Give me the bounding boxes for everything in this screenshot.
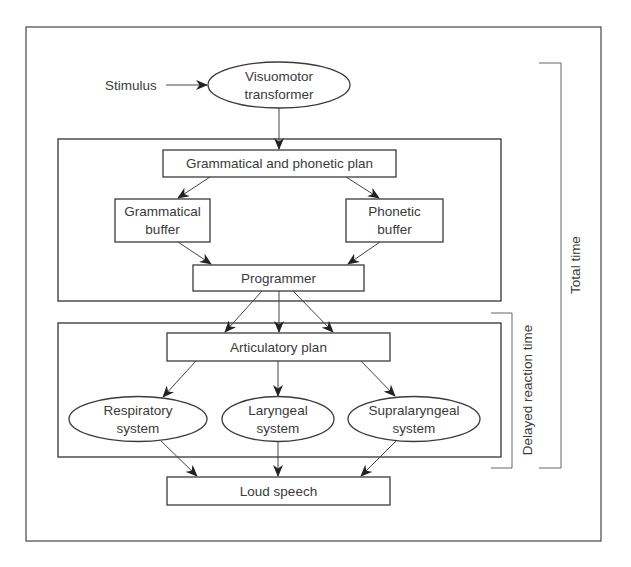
total-time-label: Total time — [568, 236, 583, 294]
programmer-node: Programmer — [193, 265, 364, 291]
supralaryngeal-to-speech-arrow — [361, 441, 396, 476]
visuomotor-line1: Visuomotor — [245, 69, 314, 84]
delayed-reaction-time-label: Delayed reaction time — [520, 325, 535, 456]
respiratory-system-node: Respiratory system — [69, 397, 207, 442]
respiratory-line2: system — [117, 421, 160, 436]
total-time-bracket — [539, 63, 561, 468]
supralaryngeal-line1: Supralaryngeal — [369, 403, 460, 418]
articulatory-plan-label: Articulatory plan — [230, 340, 327, 355]
plan-to-phonetic-arrow — [346, 177, 379, 198]
grammatical-buffer-node: Grammatical buffer — [115, 199, 210, 242]
programmer-to-articulatory-arrow-right — [293, 291, 333, 332]
plan-label: Grammatical and phonetic plan — [186, 156, 373, 171]
visuomotor-line2: transformer — [244, 87, 314, 102]
grammatical-buffer-line1: Grammatical — [124, 204, 201, 219]
laryngeal-line2: system — [257, 421, 300, 436]
speech-production-diagram: Stimulus Visuomotor transformer Grammati… — [0, 0, 631, 567]
plan-to-grammatical-arrow — [178, 177, 210, 198]
supralaryngeal-system-node: Supralaryngeal system — [348, 397, 480, 442]
programmer-to-articulatory-arrow-left — [225, 291, 262, 332]
grammatical-to-programmer-arrow — [178, 242, 211, 264]
loud-speech-label: Loud speech — [240, 484, 317, 499]
visuomotor-transformer-node: Visuomotor transformer — [208, 62, 350, 108]
articulatory-plan-node: Articulatory plan — [167, 333, 390, 361]
respiratory-to-speech-arrow — [161, 441, 197, 476]
laryngeal-line1: Laryngeal — [248, 403, 307, 418]
phonetic-buffer-line2: buffer — [377, 222, 412, 237]
laryngeal-system-node: Laryngeal system — [222, 397, 334, 442]
grammatical-buffer-line2: buffer — [145, 222, 180, 237]
grammatical-phonetic-plan-node: Grammatical and phonetic plan — [163, 150, 396, 177]
programmer-label: Programmer — [241, 271, 317, 286]
stimulus-label: Stimulus — [105, 78, 157, 93]
respiratory-line1: Respiratory — [103, 403, 172, 418]
phonetic-buffer-line1: Phonetic — [368, 204, 421, 219]
loud-speech-node: Loud speech — [167, 477, 390, 505]
supralaryngeal-line2: system — [393, 421, 436, 436]
phonetic-to-programmer-arrow — [348, 242, 380, 264]
articulatory-to-respiratory-arrow — [163, 361, 196, 397]
phonetic-buffer-node: Phonetic buffer — [346, 199, 443, 242]
articulatory-to-supralaryngeal-arrow — [361, 361, 395, 396]
